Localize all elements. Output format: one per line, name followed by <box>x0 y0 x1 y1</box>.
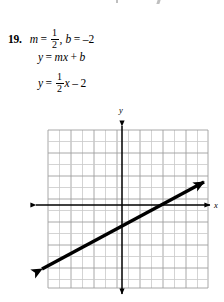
answer-fraction: 12 <box>56 72 64 94</box>
comma-separator: , <box>60 33 63 45</box>
problem-line-answer: y=12x–2 <box>38 72 86 94</box>
y-axis-label: y <box>118 105 123 115</box>
problem-line-formula: y=mx+b <box>38 52 85 64</box>
fraction-denominator: 2 <box>56 84 64 94</box>
coordinate-graph: y x <box>0 96 224 302</box>
page-artifact-mark <box>116 0 118 3</box>
b-variable: b <box>80 51 86 63</box>
m-variable: m <box>55 51 63 63</box>
equals-sign: = <box>41 33 48 45</box>
fraction-denominator: 2 <box>51 40 59 50</box>
x-variable: x <box>63 51 68 63</box>
problem-number: 19. <box>8 33 22 45</box>
grid-horizontal-lines <box>48 130 208 288</box>
slope-fraction: 12 <box>51 28 59 50</box>
slope-variable: m <box>30 33 38 45</box>
grid-vertical-lines <box>48 130 208 288</box>
equals-sign: = <box>74 33 81 45</box>
intercept-value: –2 <box>83 33 95 45</box>
x-axis-label: x <box>213 200 218 210</box>
page-artifact-mark <box>156 0 160 4</box>
fraction-numerator: 1 <box>56 72 64 82</box>
minus-sign: – <box>72 77 78 89</box>
problem-line-given: 19.m=12,b=–2 <box>8 28 94 50</box>
equals-sign: = <box>46 77 53 89</box>
intercept-variable: b <box>65 33 71 45</box>
fraction-numerator: 1 <box>51 28 59 38</box>
grid-lines <box>48 130 208 288</box>
y-variable: y <box>38 51 43 63</box>
plus-sign: + <box>71 51 78 63</box>
plotted-line <box>42 182 204 269</box>
x-variable: x <box>65 77 70 89</box>
y-variable: y <box>38 77 43 89</box>
graph-canvas: y x <box>0 96 224 302</box>
equals-sign: = <box>46 51 53 63</box>
constant-term: 2 <box>80 77 86 89</box>
